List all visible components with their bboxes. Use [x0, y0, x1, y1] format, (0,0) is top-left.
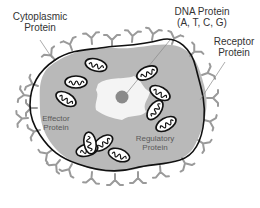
receptor-label-line2: Protein — [210, 47, 258, 58]
effector-label-line2: Protein — [36, 123, 76, 132]
regulatory-label-line1: Regulatory — [130, 134, 180, 143]
dna-protein-label: DNA Protein (A, T, C, G) — [165, 6, 239, 28]
nucleolus — [116, 91, 129, 104]
cell-diagram: Cytoplasmic Protein DNA Protein (A, T, C… — [0, 0, 260, 208]
cytoplasmic-protein-label: Cytoplasmic Protein — [2, 11, 78, 33]
effector-label-line1: Effector — [36, 114, 76, 123]
receptor-label-line1: Receptor — [210, 36, 258, 47]
regulatory-label-line2: Protein — [130, 143, 180, 152]
receptor-protein-label: Receptor Protein — [210, 36, 258, 58]
dna-label-line1: DNA Protein — [165, 6, 239, 17]
regulatory-protein-label: Regulatory Protein — [130, 134, 180, 152]
effector-protein-label: Effector Protein — [36, 114, 76, 132]
dna-label-line2: (A, T, C, G) — [165, 17, 239, 28]
receptor-pointer-line — [200, 62, 225, 100]
cytoplasmic-label-line2: Protein — [2, 22, 78, 33]
cytoplasmic-label-line1: Cytoplasmic — [2, 11, 78, 22]
